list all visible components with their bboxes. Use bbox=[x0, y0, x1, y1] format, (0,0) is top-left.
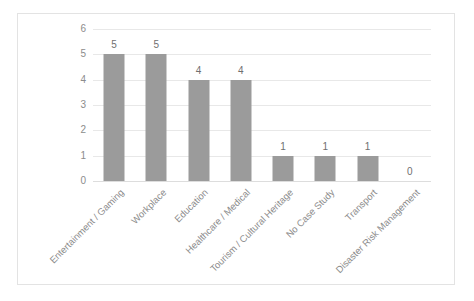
plot-area: 0123456 55441110 bbox=[93, 29, 431, 181]
y-tick-label-5: 5 bbox=[80, 49, 86, 59]
y-tick-label-6: 6 bbox=[80, 24, 86, 34]
bar-value-label: 0 bbox=[407, 167, 413, 177]
bar-slot: 5 bbox=[93, 29, 135, 181]
bar-value-label: 4 bbox=[238, 66, 244, 76]
bar-value-label: 5 bbox=[111, 40, 117, 50]
bar[interactable] bbox=[357, 156, 378, 181]
y-tick-label-2: 2 bbox=[80, 125, 86, 135]
x-tick-label: Tourism / Cultural Heritage bbox=[208, 186, 296, 274]
x-tick-label: Education bbox=[173, 186, 211, 224]
bar-slot: 0 bbox=[389, 29, 431, 181]
bar-value-label: 1 bbox=[280, 142, 286, 152]
bar-slot: 4 bbox=[220, 29, 262, 181]
y-tick-label-0: 0 bbox=[80, 176, 86, 186]
bar-value-label: 5 bbox=[154, 40, 160, 50]
bar[interactable] bbox=[315, 156, 336, 181]
bar-slot: 1 bbox=[262, 29, 304, 181]
gridline-0 bbox=[93, 181, 431, 182]
y-tick-label-3: 3 bbox=[80, 100, 86, 110]
bar[interactable] bbox=[146, 54, 167, 181]
bar-slot: 4 bbox=[178, 29, 220, 181]
bar-value-label: 4 bbox=[196, 66, 202, 76]
bar-value-label: 1 bbox=[323, 142, 329, 152]
x-tick-label: Transport bbox=[344, 186, 381, 223]
x-tick-label: Entertainment / Gaming bbox=[48, 186, 127, 265]
x-tick-label: Workplace bbox=[129, 186, 169, 226]
bar-value-label: 1 bbox=[365, 142, 371, 152]
bar[interactable] bbox=[230, 80, 251, 181]
bar[interactable] bbox=[104, 54, 125, 181]
x-tick-label: Disaster Risk Management bbox=[334, 186, 423, 275]
bar[interactable] bbox=[188, 80, 209, 181]
bar-slot: 1 bbox=[304, 29, 346, 181]
bar-slot: 1 bbox=[347, 29, 389, 181]
y-tick-label-1: 1 bbox=[80, 151, 86, 161]
bar-slot: 5 bbox=[135, 29, 177, 181]
y-tick-label-4: 4 bbox=[80, 75, 86, 85]
chart-figure: 0123456 55441110 Entertainment / GamingW… bbox=[17, 13, 455, 285]
bar[interactable] bbox=[273, 156, 294, 181]
